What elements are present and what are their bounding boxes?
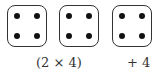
- die-3: [112, 5, 152, 47]
- pip-icon: [14, 13, 20, 19]
- pip-icon: [139, 33, 145, 39]
- pip-icon: [66, 13, 72, 19]
- die-1: [7, 5, 47, 47]
- pip-icon: [34, 33, 40, 39]
- pip-icon: [139, 13, 145, 19]
- pip-icon: [86, 33, 92, 39]
- pip-icon: [14, 33, 20, 39]
- pip-icon: [119, 13, 125, 19]
- pip-icon: [86, 13, 92, 19]
- extra-label: + 4: [127, 55, 150, 71]
- pip-icon: [66, 33, 72, 39]
- pip-icon: [34, 13, 40, 19]
- pip-icon: [119, 33, 125, 39]
- die-2: [59, 5, 99, 47]
- group-label: (2 × 4): [36, 55, 82, 71]
